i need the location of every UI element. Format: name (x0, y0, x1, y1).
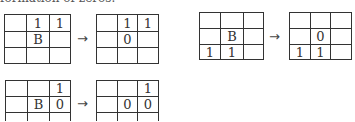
cell (244, 13, 264, 29)
example-2-before-grid: B 1 1 (199, 12, 264, 60)
cell (138, 48, 159, 64)
cell (6, 81, 28, 97)
cell: 1 (311, 45, 331, 60)
cell (290, 29, 311, 45)
cell: 1 (118, 15, 138, 32)
cell: 0 (50, 97, 71, 113)
cell (28, 113, 50, 122)
cell (200, 13, 221, 29)
cell: 1 (50, 15, 71, 32)
cell: 1 (221, 45, 244, 60)
cell (118, 48, 138, 64)
cell (97, 15, 118, 32)
cell: 1 (200, 45, 221, 60)
right-arrow-icon: → (77, 96, 88, 111)
cell (50, 113, 71, 122)
cell (221, 13, 244, 29)
cell (5, 48, 27, 64)
cell (244, 45, 264, 60)
cell (97, 32, 118, 48)
cell: 1 (138, 81, 159, 97)
right-arrow-icon: → (269, 29, 280, 44)
cell (28, 81, 50, 97)
cell (50, 32, 71, 48)
cell (97, 48, 118, 64)
cell (97, 97, 118, 113)
example-3-after-grid: 1 0 0 (96, 80, 159, 121)
cell: 0 (118, 32, 138, 48)
cell: 1 (290, 45, 311, 60)
cell: B (221, 29, 244, 45)
cell (5, 32, 27, 48)
example-1-before-grid: 1 1 B (4, 14, 71, 64)
cell (290, 13, 311, 29)
cell (118, 113, 138, 122)
cell (200, 29, 221, 45)
cell (138, 32, 159, 48)
cell (50, 48, 71, 64)
cell: B (27, 32, 50, 48)
cell (331, 29, 352, 45)
cell (311, 13, 331, 29)
cell (331, 13, 352, 29)
cell (97, 81, 118, 97)
example-3-before-grid: 1 B 0 (5, 80, 71, 121)
example-1-after-grid: 1 1 0 (96, 14, 159, 64)
right-arrow-icon: → (77, 31, 88, 46)
cell (97, 113, 118, 122)
cell: 0 (138, 97, 159, 113)
cut-off-caption: formation of zeros. (0, 0, 115, 5)
cell (118, 81, 138, 97)
cell (6, 97, 28, 113)
cell: 0 (311, 29, 331, 45)
example-2-after-grid: 0 1 1 (289, 12, 352, 60)
cell (244, 29, 264, 45)
cell: 1 (138, 15, 159, 32)
cell (331, 45, 352, 60)
cell: 1 (27, 15, 50, 32)
cell (138, 113, 159, 122)
cell (27, 48, 50, 64)
cell: B (28, 97, 50, 113)
cell: 0 (118, 97, 138, 113)
cell (6, 113, 28, 122)
cell (5, 15, 27, 32)
cell: 1 (50, 81, 71, 97)
